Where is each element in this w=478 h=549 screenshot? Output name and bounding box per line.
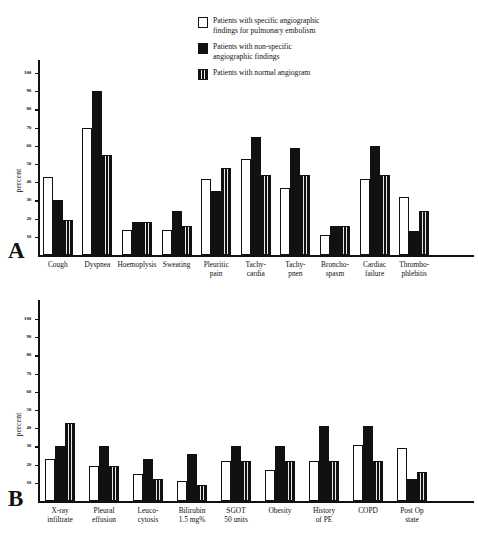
- bar: [211, 191, 221, 255]
- bar-group: [394, 60, 434, 255]
- y-tick-label: 20: [8, 462, 31, 467]
- y-tick-label: 40: [8, 179, 31, 184]
- bar: [172, 211, 182, 255]
- legend-label: Patients with non-specific angiographic …: [213, 42, 292, 61]
- bar-group-container-b: [38, 301, 474, 501]
- y-tick-label: 70: [8, 125, 31, 130]
- bar-group: [38, 60, 78, 255]
- y-tick-label: 30: [8, 443, 31, 448]
- bar: [201, 179, 211, 255]
- bar: [99, 446, 109, 501]
- bar: [45, 459, 55, 501]
- legend-label: Patients with normal angiogram: [213, 68, 310, 78]
- legend-item-1: Patients with non-specific angiographic …: [198, 42, 292, 61]
- bar: [399, 197, 409, 255]
- bar: [142, 222, 152, 255]
- legend: Patients with specific angiographic find…: [198, 16, 478, 86]
- y-tick-label: 100: [8, 70, 31, 75]
- bar-group: [170, 301, 214, 501]
- bar: [340, 226, 350, 255]
- y-tick-label: 50: [8, 407, 31, 412]
- legend-item-0: Patients with specific angiographic find…: [198, 16, 320, 35]
- bar: [300, 175, 310, 255]
- bar: [65, 423, 75, 501]
- y-tick-label: 50: [8, 161, 31, 166]
- bar: [370, 146, 380, 255]
- bar-group: [78, 60, 118, 255]
- bar: [319, 426, 329, 501]
- x-axis-b: [38, 501, 474, 503]
- bar: [275, 446, 285, 501]
- bar: [102, 155, 112, 255]
- bar: [153, 479, 163, 501]
- y-tick-label: 40: [8, 425, 31, 430]
- bar: [407, 479, 417, 501]
- bar-group: [214, 301, 258, 501]
- bar: [109, 466, 119, 501]
- bar-group: [196, 60, 236, 255]
- bar-group: [258, 301, 302, 501]
- bar: [285, 461, 295, 501]
- bar: [221, 168, 231, 255]
- panel-a: percent 100908070605040302010 CoughDyspn…: [0, 0, 478, 290]
- bar-group: [126, 301, 170, 501]
- bar: [409, 231, 419, 255]
- bar: [353, 445, 363, 501]
- bar-group: [346, 301, 390, 501]
- bar: [419, 211, 429, 255]
- bar: [380, 175, 390, 255]
- bar: [320, 235, 330, 255]
- bar: [290, 148, 300, 255]
- bar: [143, 459, 153, 501]
- bar: [397, 448, 407, 501]
- bar: [417, 472, 427, 501]
- panel-b: percent 100908070605040302010 X-rayinfil…: [0, 290, 478, 549]
- x-axis-a: [38, 255, 474, 257]
- y-tick-label: 80: [8, 352, 31, 357]
- bar: [133, 474, 143, 501]
- y-tick-label: 30: [8, 197, 31, 202]
- bar: [53, 200, 63, 255]
- bar: [92, 91, 102, 255]
- bar: [280, 188, 290, 255]
- legend-swatch-striped-icon: [198, 69, 208, 80]
- bar: [182, 226, 192, 255]
- y-tick-label: 10: [8, 480, 31, 485]
- x-tick-label: Thrombo-phlebitis: [386, 260, 442, 278]
- y-tick-label: 90: [8, 88, 31, 93]
- bar: [162, 230, 172, 255]
- legend-swatch-open-icon: [198, 17, 208, 28]
- bar: [330, 226, 340, 255]
- bar-group: [38, 301, 82, 501]
- bar: [55, 446, 65, 501]
- y-tick-label: 70: [8, 371, 31, 376]
- bar: [241, 461, 251, 501]
- bar-group: [82, 301, 126, 501]
- bar-group: [355, 60, 395, 255]
- plot-area-b: percent 100908070605040302010 X-rayinfil…: [0, 290, 478, 549]
- bar: [309, 461, 319, 501]
- bar-group-container-a: [38, 60, 474, 255]
- y-tick-label: 100: [8, 316, 31, 321]
- y-tick-label: 60: [8, 389, 31, 394]
- bar-group: [276, 60, 316, 255]
- bar: [329, 461, 339, 501]
- bar: [43, 177, 53, 255]
- bar: [122, 230, 132, 255]
- bar-group: [157, 60, 197, 255]
- bar: [89, 466, 99, 501]
- bar: [132, 222, 142, 255]
- legend-swatch-solid-icon: [198, 43, 208, 54]
- y-tick-label: 90: [8, 334, 31, 339]
- bar: [187, 454, 197, 501]
- bar: [177, 481, 187, 501]
- bar-group: [390, 301, 434, 501]
- bar: [251, 137, 261, 255]
- panel-letter-b: B: [8, 486, 23, 512]
- bar-group: [236, 60, 276, 255]
- bar-group: [302, 301, 346, 501]
- bar: [261, 175, 271, 255]
- bar: [363, 426, 373, 501]
- bar: [221, 461, 231, 501]
- panel-letter-a: A: [8, 238, 25, 264]
